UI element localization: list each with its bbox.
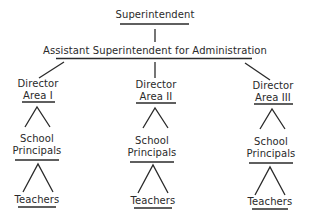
assistant-superintendent-node: Assistant Superintendent for Administrat… bbox=[43, 45, 267, 57]
principals-2-line2: Principals bbox=[128, 147, 177, 159]
principals-3-line1: School bbox=[247, 136, 296, 148]
director-area-1-node: Director Area I bbox=[18, 78, 59, 102]
director-area-1-title: Director bbox=[18, 78, 59, 90]
school-principals-3-node: School Principals bbox=[247, 136, 296, 160]
director-area-2-title: Director bbox=[136, 79, 177, 91]
connector-lines bbox=[0, 0, 311, 222]
director-area-3-area: Area III bbox=[253, 92, 294, 104]
principals-1-line1: School bbox=[13, 133, 62, 145]
director-area-2-node: Director Area II bbox=[136, 79, 177, 103]
teachers-1-node: Teachers bbox=[15, 194, 60, 206]
superintendent-node: Superintendent bbox=[116, 9, 195, 21]
teachers-3-node: Teachers bbox=[248, 196, 293, 208]
director-area-2-area: Area II bbox=[136, 91, 177, 103]
principals-2-line1: School bbox=[128, 135, 177, 147]
teachers-2-node: Teachers bbox=[131, 195, 176, 207]
school-principals-1-node: School Principals bbox=[13, 133, 62, 157]
director-area-3-node: Director Area III bbox=[253, 80, 294, 104]
principals-3-line2: Principals bbox=[247, 148, 296, 160]
director-area-3-title: Director bbox=[253, 80, 294, 92]
principals-1-line2: Principals bbox=[13, 145, 62, 157]
director-area-1-area: Area I bbox=[18, 90, 59, 102]
school-principals-2-node: School Principals bbox=[128, 135, 177, 159]
